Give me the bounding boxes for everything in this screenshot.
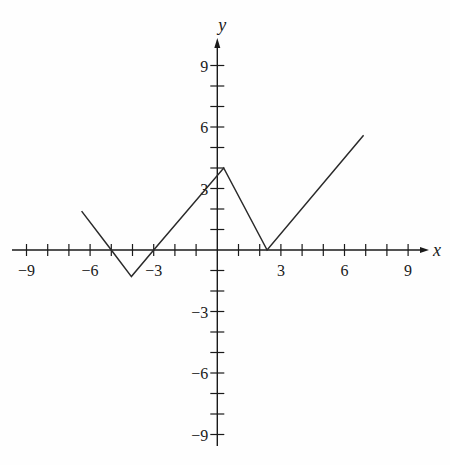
y-axis-label: y: [216, 15, 226, 35]
x-tick-label: −3: [145, 262, 162, 279]
x-tick-label: −6: [82, 262, 99, 279]
y-tick-label: −3: [191, 304, 208, 321]
y-tick-label: 6: [200, 119, 208, 136]
y-tick-label: −6: [191, 365, 208, 382]
x-tick-label: 3: [277, 262, 285, 279]
graph-figure: x y −9−6−3369 963−3−6−9: [0, 0, 450, 465]
y-tick-label: 9: [200, 58, 208, 75]
y-tick-label: −9: [191, 427, 208, 444]
graph-line: [82, 135, 364, 276]
y-axis-arrow-icon: [214, 38, 220, 48]
x-tick-label: 9: [404, 262, 412, 279]
coordinate-plane: x y −9−6−3369 963−3−6−9: [0, 0, 450, 465]
x-tick-label: 6: [341, 262, 349, 279]
x-axis-arrow-icon: [420, 247, 429, 253]
x-axis-label: x: [432, 240, 441, 260]
axes: x y: [12, 15, 441, 446]
x-tick-label: −9: [18, 262, 35, 279]
